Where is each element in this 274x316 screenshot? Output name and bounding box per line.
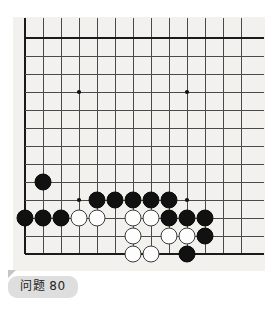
white-stone[interactable] [71,210,88,227]
white-stone[interactable] [125,246,142,263]
black-stone[interactable] [143,192,160,209]
black-stone[interactable] [53,210,70,227]
black-stone[interactable] [179,210,196,227]
white-stone[interactable] [125,210,142,227]
white-stone[interactable] [143,210,160,227]
black-stone[interactable] [125,192,142,209]
black-stone[interactable] [197,228,214,245]
black-stone[interactable] [107,192,124,209]
white-stone[interactable] [125,228,142,245]
white-stone[interactable] [161,228,178,245]
black-stone[interactable] [89,192,106,209]
black-stone[interactable] [179,246,196,263]
black-stone[interactable] [161,192,178,209]
black-stone[interactable] [197,210,214,227]
white-stone[interactable] [179,228,196,245]
white-stone[interactable] [89,210,106,227]
black-stone[interactable] [35,210,52,227]
go-problem-page: 问题 80 [0,0,274,316]
black-stone[interactable] [17,210,34,227]
caption: 问题 80 [8,276,78,298]
black-stone[interactable] [35,174,52,191]
go-board[interactable] [14,18,264,270]
problem-label: 问题 80 [8,276,78,298]
white-stone[interactable] [143,246,160,263]
black-stone[interactable] [161,210,178,227]
